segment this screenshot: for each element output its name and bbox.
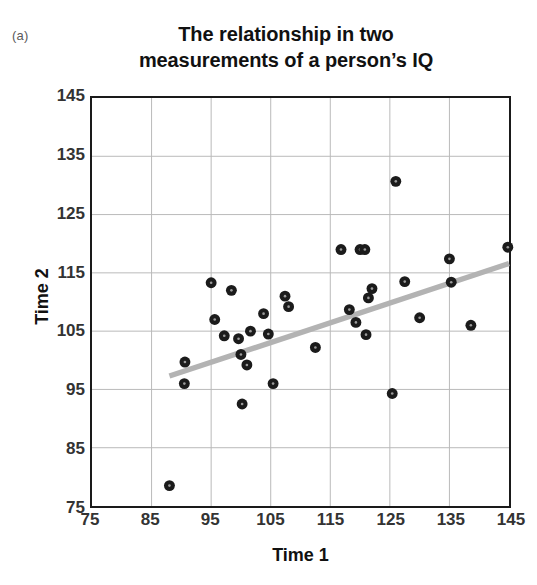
chart-title: The relationship in two measurements of …: [86, 22, 486, 73]
x-axis-title: Time 1: [90, 545, 511, 566]
y-tick-label: 105: [57, 321, 85, 341]
x-tick-label: 135: [437, 510, 465, 530]
y-tick-label: 75: [66, 498, 85, 518]
y-tick-label: 115: [58, 263, 85, 283]
x-tick-label: 95: [201, 510, 220, 530]
scatter-plot-figure: (a) The relationship in two measurements…: [0, 0, 537, 585]
chart-title-line-2: measurements of a person’s IQ: [86, 48, 486, 74]
y-tick-label: 85: [66, 439, 85, 459]
x-tick-label: 125: [377, 510, 405, 530]
x-tick-label: 115: [317, 510, 344, 530]
x-tick-label: 145: [497, 510, 525, 530]
y-axis-title: Time 2: [32, 237, 53, 357]
y-tick-label: 135: [57, 145, 85, 165]
x-tick-label: 85: [141, 510, 160, 530]
y-tick-label: 125: [57, 204, 85, 224]
x-tick-label: 105: [256, 510, 284, 530]
chart-title-line-1: The relationship in two: [86, 22, 486, 48]
y-tick-label: 145: [57, 86, 85, 106]
plot-area: [90, 96, 511, 508]
data-points: [92, 98, 509, 506]
y-tick-label: 95: [66, 380, 85, 400]
panel-label: (a): [12, 28, 29, 43]
